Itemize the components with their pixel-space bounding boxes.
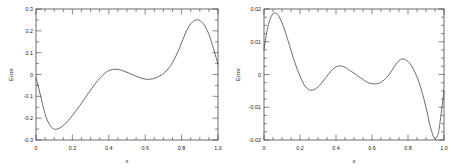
chart-panel-right: 0.02 0.01 0 -0.01 -0.02 0 0.2 0.4 0.6 0.… xyxy=(227,0,454,168)
x-tick-label: 0.8 xyxy=(178,145,186,151)
y-axis-title: Error xyxy=(8,68,14,81)
x-tick-label: 0.6 xyxy=(368,145,376,151)
axis-ticks xyxy=(36,9,218,140)
plot-frame xyxy=(264,9,444,140)
chart-right-svg: 0.02 0.01 0 -0.01 -0.02 0 0.2 0.4 0.6 0.… xyxy=(227,0,454,168)
chart-left-svg: 0.3 0.2 0.1 0 -0.1 -0.2 -0.3 0 0.2 0.4 0… xyxy=(0,0,227,168)
x-tick-label: 0.8 xyxy=(404,145,412,151)
x-tick-label: 0.2 xyxy=(69,145,77,151)
y-tick-label: 0.02 xyxy=(251,6,262,12)
x-axis-title: x xyxy=(126,158,129,164)
figure-root: 0.3 0.2 0.1 0 -0.1 -0.2 -0.3 0 0.2 0.4 0… xyxy=(0,0,454,168)
chart-panel-left: 0.3 0.2 0.1 0 -0.1 -0.2 -0.3 0 0.2 0.4 0… xyxy=(0,0,227,168)
axis-ticks xyxy=(264,9,444,140)
x-tick-label: 0 xyxy=(263,145,266,151)
x-tick-label: 1.0 xyxy=(440,145,448,151)
error-curve xyxy=(36,20,218,130)
x-tick-label: 0.4 xyxy=(332,145,340,151)
y-tick-label: 0.2 xyxy=(26,28,34,34)
y-axis-title: Error xyxy=(235,68,241,81)
plot-frame xyxy=(36,9,218,140)
x-tick-label: 0.2 xyxy=(296,145,304,151)
error-curve xyxy=(264,13,444,139)
y-tick-label: -0.2 xyxy=(24,115,33,121)
y-tick-label: 0.1 xyxy=(26,50,34,56)
x-tick-label: 0 xyxy=(35,145,38,151)
y-tick-label: 0 xyxy=(258,72,261,78)
y-tick-label: 0.01 xyxy=(251,39,262,45)
x-axis-title: x xyxy=(353,158,356,164)
x-tick-label: 0.4 xyxy=(105,145,113,151)
y-tick-label: -0.01 xyxy=(249,104,261,110)
y-tick-label: 0 xyxy=(30,72,33,78)
x-tick-label: 1.0 xyxy=(214,145,222,151)
y-tick-label: -0.02 xyxy=(249,137,261,143)
y-tick-label: 0.3 xyxy=(26,6,34,12)
y-tick-label: -0.3 xyxy=(24,137,33,143)
x-tick-label: 0.6 xyxy=(141,145,149,151)
y-tick-label: -0.1 xyxy=(24,93,33,99)
